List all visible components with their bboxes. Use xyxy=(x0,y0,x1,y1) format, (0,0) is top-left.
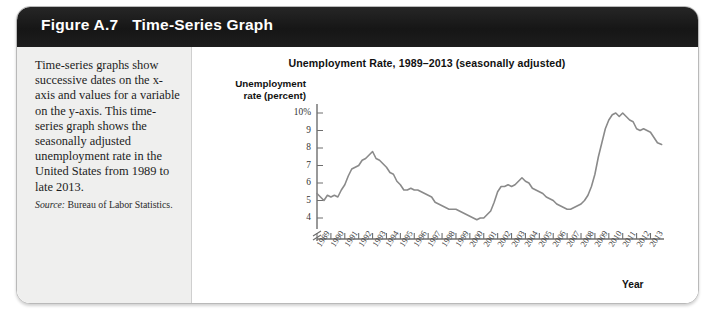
y-axis-title-line1: Unemployment xyxy=(202,78,306,90)
y-tick-label: 9 xyxy=(277,125,311,135)
y-axis-title-line2: rate (percent) xyxy=(202,90,306,102)
source-text: Bureau of Labor Statistics. xyxy=(65,199,172,210)
plot-area xyxy=(299,102,665,251)
y-tick-label: 10% xyxy=(277,107,311,117)
figure-card: Figure A.7Time-Series Graph Time-series … xyxy=(16,6,699,304)
source-label: Source: xyxy=(35,199,65,210)
y-tick-label: 7 xyxy=(277,160,311,170)
chart-title: Unemployment Rate, 1989–2013 (seasonally… xyxy=(192,57,662,69)
caption-body: Time-series graphs show successive dates… xyxy=(35,58,181,195)
figure-header-bar: Figure A.7Time-Series Graph xyxy=(17,7,699,47)
figure-title: Time-Series Graph xyxy=(132,16,273,33)
figure-body: Time-series graphs show successive dates… xyxy=(17,47,699,304)
y-tick-label: 5 xyxy=(277,195,311,205)
y-tick-label: 8 xyxy=(277,142,311,152)
figure-number: Figure A.7 xyxy=(41,16,118,33)
figure-header-text: Figure A.7Time-Series Graph xyxy=(41,16,273,34)
caption-source: Source: Bureau of Labor Statistics. xyxy=(35,199,185,210)
data-line-0 xyxy=(317,113,662,220)
y-axis-title: Unemployment rate (percent) xyxy=(202,78,306,101)
y-tick-label: 6 xyxy=(277,177,311,187)
chart-svg xyxy=(299,102,665,251)
y-tick-label: 4 xyxy=(277,212,311,222)
x-axis-title: Year xyxy=(622,279,644,290)
chart-pane: Unemployment Rate, 1989–2013 (seasonally… xyxy=(192,47,699,304)
caption-pane: Time-series graphs show successive dates… xyxy=(17,47,192,304)
